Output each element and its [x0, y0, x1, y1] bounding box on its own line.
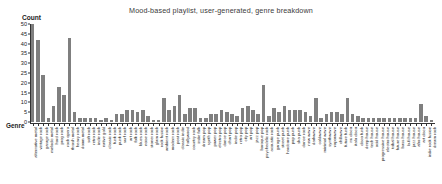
bar[interactable] — [356, 116, 360, 122]
bar[interactable] — [277, 112, 281, 122]
x-tick-mark — [206, 123, 207, 126]
bar[interactable] — [47, 118, 51, 122]
x-tick-label: noise rock — [144, 127, 148, 146]
bar[interactable] — [382, 118, 386, 122]
bar[interactable] — [246, 106, 250, 122]
bar[interactable] — [183, 114, 187, 122]
bar[interactable] — [136, 112, 140, 122]
bar[interactable] — [230, 114, 234, 122]
bar[interactable] — [31, 24, 35, 122]
bar[interactable] — [78, 118, 82, 122]
bar[interactable] — [125, 110, 129, 122]
bar[interactable] — [83, 118, 87, 122]
x-tick-mark — [242, 123, 243, 126]
x-tick-mark — [305, 123, 306, 126]
x-tick-mark — [431, 123, 432, 126]
bar[interactable] — [330, 112, 334, 122]
bar[interactable] — [94, 118, 98, 122]
x-tick-mark — [143, 123, 144, 126]
bar[interactable] — [251, 110, 255, 122]
bar[interactable] — [41, 75, 45, 122]
bar[interactable] — [162, 98, 166, 122]
bar[interactable] — [178, 95, 182, 122]
x-tick-mark — [122, 123, 123, 126]
bar[interactable] — [361, 118, 365, 122]
x-tick-mark — [274, 123, 275, 126]
bar[interactable] — [193, 108, 197, 122]
x-tick-mark — [90, 123, 91, 126]
bar[interactable] — [398, 118, 402, 122]
bar[interactable] — [372, 118, 376, 122]
bar[interactable] — [68, 38, 72, 122]
bar[interactable] — [256, 114, 260, 122]
bar[interactable] — [214, 114, 218, 122]
bar[interactable] — [351, 114, 355, 122]
x-tick-label: chart pop — [228, 127, 232, 144]
bar[interactable] — [409, 118, 413, 122]
bar[interactable] — [188, 108, 192, 122]
x-tick-mark — [363, 123, 364, 126]
bar[interactable] — [141, 110, 145, 122]
bar[interactable] — [89, 118, 93, 122]
bar[interactable] — [309, 116, 313, 122]
y-tick-label: 45 — [21, 31, 27, 37]
bar[interactable] — [52, 106, 56, 122]
y-tick-mark — [28, 24, 31, 25]
x-tick-mark — [153, 123, 154, 126]
x-tick-mark — [258, 123, 259, 126]
x-tick-mark — [138, 123, 139, 126]
bar[interactable] — [262, 85, 266, 122]
bar[interactable] — [241, 108, 245, 122]
bar[interactable] — [104, 118, 108, 122]
x-tick-mark — [222, 123, 223, 126]
x-tick-mark — [253, 123, 254, 126]
x-tick-mark — [106, 123, 107, 126]
bar[interactable] — [293, 110, 297, 122]
bar[interactable] — [403, 118, 407, 122]
bar[interactable] — [377, 118, 381, 122]
bar[interactable] — [199, 118, 203, 122]
bar[interactable] — [209, 114, 213, 122]
bar[interactable] — [335, 112, 339, 122]
x-tick-mark — [379, 123, 380, 126]
bar[interactable] — [298, 110, 302, 122]
bar[interactable] — [220, 110, 224, 122]
bar[interactable] — [57, 87, 61, 122]
bar[interactable] — [325, 114, 329, 122]
bar[interactable] — [131, 110, 135, 122]
bar[interactable] — [319, 118, 323, 122]
x-tick-mark — [85, 123, 86, 126]
bar[interactable] — [340, 114, 344, 122]
bar[interactable] — [73, 112, 77, 122]
bar[interactable] — [314, 98, 318, 122]
x-tick-mark — [416, 123, 417, 126]
bar[interactable] — [419, 104, 423, 122]
bar[interactable] — [120, 114, 124, 122]
bar[interactable] — [414, 118, 418, 122]
bar[interactable] — [204, 118, 208, 122]
bar[interactable] — [367, 118, 371, 122]
bar[interactable] — [62, 95, 66, 122]
bar[interactable] — [393, 118, 397, 122]
bar[interactable] — [167, 110, 171, 122]
bar[interactable] — [424, 116, 428, 122]
bar[interactable] — [115, 114, 119, 122]
x-tick-mark — [353, 123, 354, 126]
x-tick-mark — [295, 123, 296, 126]
bar[interactable] — [235, 116, 239, 122]
x-tick-mark — [33, 123, 34, 126]
bar[interactable] — [225, 112, 229, 122]
bar[interactable] — [288, 110, 292, 122]
bar[interactable] — [146, 116, 150, 122]
bar[interactable] — [388, 118, 392, 122]
bar[interactable] — [304, 112, 308, 122]
bar[interactable] — [173, 106, 177, 122]
bar[interactable] — [272, 108, 276, 122]
bar[interactable] — [283, 106, 287, 122]
bar[interactable] — [267, 116, 271, 122]
x-tick-mark — [80, 123, 81, 126]
y-tick-mark — [28, 82, 31, 83]
bar[interactable] — [346, 98, 350, 122]
x-tick-mark — [248, 123, 249, 126]
bar[interactable] — [36, 40, 40, 122]
